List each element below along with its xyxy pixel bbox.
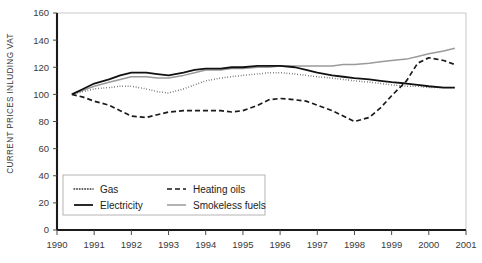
x-axis-tick-label: 1995 (232, 239, 253, 250)
y-axis-tick-label: 80 (38, 116, 49, 127)
y-axis-tick-label: 160 (33, 7, 49, 18)
x-axis-tick-label: 1998 (344, 239, 365, 250)
chart-legend: GasHeating oilsElectricitySmokeless fuel… (63, 175, 266, 215)
legend-label-gas: Gas (100, 184, 118, 195)
series-line-smokeless-fuels (72, 48, 455, 94)
x-axis-tick-label: 1992 (121, 239, 142, 250)
legend-label-heating-oils: Heating oils (193, 184, 245, 195)
x-axis-tick-label: 2000 (418, 239, 439, 250)
y-axis-tick-label: 140 (33, 35, 49, 46)
y-axis-title: CURRENT PRICES INLUDING VAT (6, 33, 15, 173)
price-index-line-chart: 020406080100120140160 199019911992199319… (0, 0, 482, 263)
chart-canvas: 020406080100120140160 199019911992199319… (0, 0, 482, 263)
y-axis: 020406080100120140160 (33, 7, 57, 235)
x-axis-tick-label: 1996 (270, 239, 291, 250)
y-axis-tick-label: 40 (38, 170, 49, 181)
legend-label-smokeless-fuels: Smokeless fuels (193, 200, 266, 211)
x-axis-tick-label: 1993 (158, 239, 179, 250)
y-axis-tick-label: 60 (38, 143, 49, 154)
y-axis-tick-label: 100 (33, 89, 49, 100)
x-axis-tick-label: 1990 (46, 239, 67, 250)
y-axis-tick-label: 120 (33, 62, 49, 73)
x-axis: 1990199119921993199419951996199719981999… (46, 230, 476, 250)
x-axis-tick-label: 1999 (381, 239, 402, 250)
x-axis-tick-label: 2001 (455, 239, 476, 250)
x-axis-tick-label: 1997 (307, 239, 328, 250)
legend-label-electricity: Electricity (100, 200, 143, 211)
y-axis-title-group: CURRENT PRICES INLUDING VAT (6, 33, 15, 173)
x-axis-tick-label: 1994 (195, 239, 216, 250)
y-axis-tick-label: 0 (44, 224, 49, 235)
x-axis-tick-label: 1991 (84, 239, 105, 250)
data-series-group (72, 48, 455, 121)
y-axis-tick-label: 20 (38, 197, 49, 208)
